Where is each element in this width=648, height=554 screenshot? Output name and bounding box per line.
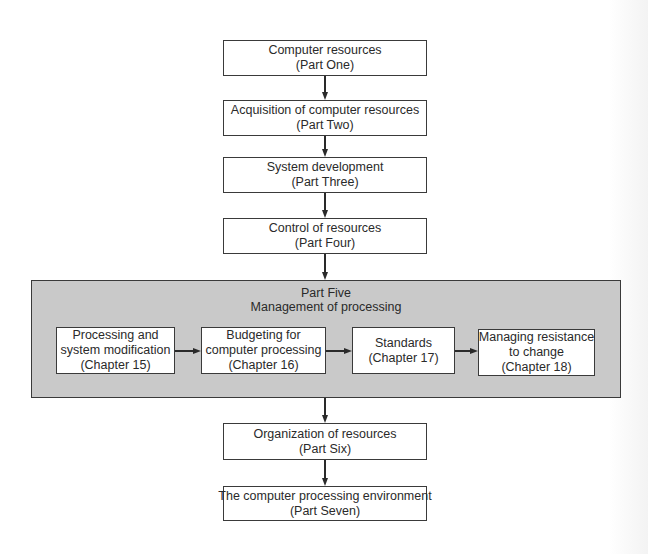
node-title: Computer resources	[268, 43, 381, 58]
connector-line	[324, 193, 326, 211]
node-line: (Chapter 18)	[501, 360, 571, 375]
arrow-right-icon	[470, 348, 478, 354]
node-line: to change	[509, 345, 564, 360]
node-chapter-15: Processing and system modification (Chap…	[56, 327, 175, 374]
connector-line	[324, 76, 326, 93]
node-title: Control of resources	[269, 221, 382, 236]
arrow-right-icon	[193, 348, 201, 354]
node-line: system modification	[61, 343, 171, 358]
connector-line	[326, 350, 345, 352]
node-subtitle: (Part Four)	[295, 236, 355, 251]
node-chapter-16: Budgeting for computer processing (Chapt…	[201, 327, 326, 374]
node-line: Standards	[375, 336, 432, 351]
node-subtitle: (Part Three)	[291, 175, 358, 190]
node-line: Managing resistance	[479, 330, 594, 345]
panel-title-line2: Management of processing	[32, 300, 620, 314]
arrow-right-icon	[344, 348, 352, 354]
node-line: Processing and	[72, 328, 158, 343]
node-line: (Chapter 17)	[368, 351, 438, 366]
node-chapter-18: Managing resistance to change (Chapter 1…	[478, 329, 595, 376]
connector-line	[324, 398, 326, 416]
node-line: (Chapter 16)	[228, 358, 298, 373]
node-part-six: Organization of resources (Part Six)	[223, 423, 427, 460]
connector-line	[324, 460, 326, 479]
node-title: System development	[267, 160, 384, 175]
node-line: computer processing	[205, 343, 321, 358]
node-subtitle: (Part One)	[296, 58, 354, 73]
connector-line	[175, 350, 194, 352]
arrow-down-icon	[322, 478, 328, 486]
node-title: Organization of resources	[253, 427, 396, 442]
node-chapter-17: Standards (Chapter 17)	[352, 327, 455, 374]
node-subtitle: (Part Two)	[296, 118, 353, 133]
node-title: The computer processing environment	[218, 489, 431, 504]
node-part-seven: The computer processing environment (Par…	[223, 486, 427, 521]
node-part-four: Control of resources (Part Four)	[223, 218, 427, 254]
panel-title: Part Five Management of processing	[32, 286, 620, 314]
connector-line	[324, 254, 326, 273]
node-line: (Chapter 15)	[80, 358, 150, 373]
connector-line	[455, 350, 471, 352]
node-line: Budgeting for	[226, 328, 300, 343]
node-title: Acquisition of computer resources	[231, 103, 419, 118]
panel-title-line1: Part Five	[32, 286, 620, 300]
connector-line	[324, 136, 326, 150]
node-subtitle: (Part Seven)	[290, 504, 360, 519]
node-part-two: Acquisition of computer resources (Part …	[223, 100, 427, 136]
arrow-down-icon	[322, 415, 328, 423]
arrow-down-icon	[322, 272, 328, 280]
node-part-three: System development (Part Three)	[223, 157, 427, 193]
node-part-one: Computer resources (Part One)	[223, 40, 427, 76]
arrow-down-icon	[322, 92, 328, 100]
arrow-down-icon	[322, 149, 328, 157]
arrow-down-icon	[322, 210, 328, 218]
node-subtitle: (Part Six)	[299, 442, 351, 457]
